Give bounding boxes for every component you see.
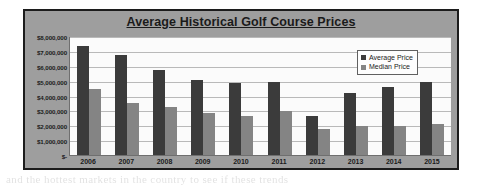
bar-median-2011 bbox=[280, 111, 292, 155]
bar-group bbox=[184, 37, 222, 155]
bar-group bbox=[70, 37, 108, 155]
x-axis-tick-label: 2007 bbox=[107, 158, 145, 165]
legend-item: Average Price bbox=[361, 53, 413, 62]
y-axis-tick-label: $8,000,000 bbox=[37, 34, 67, 41]
bar-median-2015 bbox=[432, 124, 444, 155]
bar-median-2009 bbox=[203, 113, 215, 155]
bar-average-2009 bbox=[191, 80, 203, 155]
legend-swatch-icon bbox=[361, 65, 366, 70]
bar-average-2015 bbox=[420, 82, 432, 155]
bar-median-2012 bbox=[318, 129, 330, 155]
legend-item-label: Average Price bbox=[369, 53, 413, 62]
x-axis-tick-label: 2012 bbox=[298, 158, 336, 165]
x-axis-tick-label: 2013 bbox=[336, 158, 374, 165]
chart-frame: Average Historical Golf Course Prices $8… bbox=[23, 9, 459, 170]
y-axis-tick-label: $5,000,000 bbox=[37, 78, 67, 85]
bar-average-2006 bbox=[77, 46, 89, 155]
y-axis-tick-label: $- bbox=[62, 153, 67, 160]
y-axis-tick-label: $7,000,000 bbox=[37, 48, 67, 55]
bar-average-2007 bbox=[115, 55, 127, 155]
bar-average-2011 bbox=[268, 82, 280, 155]
bar-group bbox=[146, 37, 184, 155]
y-axis-tick-label: $6,000,000 bbox=[37, 63, 67, 70]
bar-group bbox=[413, 37, 451, 155]
x-axis-tick-label: 2008 bbox=[145, 158, 183, 165]
bar-median-2007 bbox=[127, 103, 139, 155]
y-axis: $8,000,000$7,000,000$6,000,000$5,000,000… bbox=[25, 37, 69, 157]
bar-group bbox=[108, 37, 146, 155]
bar-median-2013 bbox=[356, 126, 368, 155]
bar-average-2010 bbox=[229, 83, 241, 155]
y-axis-tick-label: $4,000,000 bbox=[37, 93, 67, 100]
y-axis-tick-label: $1,000,000 bbox=[37, 138, 67, 145]
chart-title: Average Historical Golf Course Prices bbox=[25, 15, 457, 29]
bar-median-2008 bbox=[165, 107, 177, 155]
legend-swatch-icon bbox=[361, 55, 366, 60]
chart-legend: Average PriceMedian Price bbox=[357, 50, 418, 75]
background-ghost-text: and the hottest markets in the country t… bbox=[0, 173, 481, 189]
legend-item: Median Price bbox=[361, 62, 413, 71]
x-axis-tick-label: 2011 bbox=[260, 158, 298, 165]
x-axis-tick-label: 2009 bbox=[184, 158, 222, 165]
x-axis-tick-label: 2010 bbox=[222, 158, 260, 165]
x-axis-tick-label: 2015 bbox=[413, 158, 451, 165]
bar-average-2012 bbox=[306, 116, 318, 155]
x-axis-tick-label: 2006 bbox=[69, 158, 107, 165]
legend-item-label: Median Price bbox=[369, 62, 410, 71]
bar-group bbox=[260, 37, 298, 155]
y-axis-tick-label: $3,000,000 bbox=[37, 108, 67, 115]
x-axis: 2006200720082009201020112012201320142015 bbox=[69, 158, 451, 165]
bar-average-2008 bbox=[153, 70, 165, 155]
x-axis-tick-label: 2014 bbox=[375, 158, 413, 165]
y-axis-tick-label: $2,000,000 bbox=[37, 123, 67, 130]
bar-group bbox=[299, 37, 337, 155]
plot-container: $8,000,000$7,000,000$6,000,000$5,000,000… bbox=[25, 37, 457, 168]
bar-average-2014 bbox=[382, 87, 394, 155]
bar-median-2014 bbox=[394, 126, 406, 155]
bar-average-2013 bbox=[344, 93, 356, 155]
bar-median-2010 bbox=[241, 116, 253, 155]
bar-median-2006 bbox=[89, 89, 101, 155]
bar-group bbox=[222, 37, 260, 155]
